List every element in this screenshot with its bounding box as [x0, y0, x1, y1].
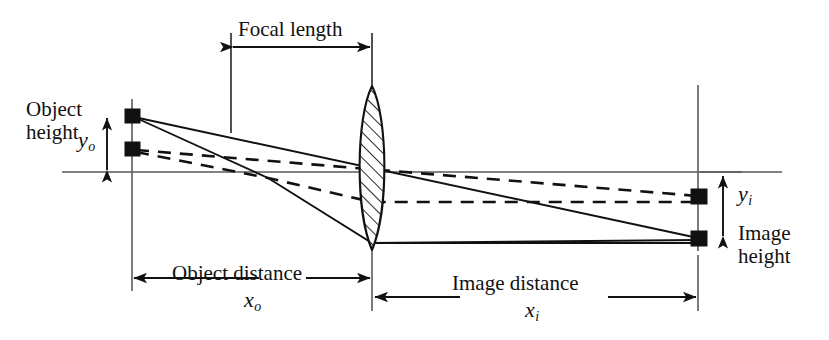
object-bottom-marker — [125, 142, 141, 157]
object-distance-symbol-base: x — [244, 287, 254, 312]
object-distance-symbol: xo — [244, 288, 261, 314]
object-top-marker — [125, 109, 141, 124]
image-distance-symbol-subscript: i — [535, 309, 539, 324]
image-height-label-line2: height — [738, 245, 791, 268]
image-height-label-line1: Image — [738, 221, 790, 245]
image-height-symbol: yi — [738, 182, 752, 208]
lens-body — [360, 86, 385, 250]
diagram-canvas — [0, 0, 829, 340]
image-height-label: Image height — [738, 222, 791, 267]
object-height-label: Object height — [26, 98, 82, 143]
image-bottom-marker — [691, 231, 708, 247]
object-height-label-line2: height — [26, 121, 82, 144]
image-height-symbol-subscript: i — [748, 193, 752, 208]
focal-length-label: Focal length — [238, 18, 342, 41]
object-height-symbol-subscript: o — [88, 139, 96, 154]
lens-diagram-figure: Object height yo Focal length Object dis… — [0, 0, 829, 340]
ray-solid-upper-a — [134, 117, 698, 238]
object-distance-symbol-subscript: o — [254, 299, 262, 314]
image-distance-symbol-base: x — [525, 297, 535, 322]
image-distance-symbol: xi — [525, 298, 539, 324]
image-height-symbol-base: y — [738, 181, 748, 206]
object-distance-label: Object distance — [172, 262, 302, 285]
object-height-label-line1: Object — [26, 97, 82, 121]
object-height-symbol-base: y — [78, 127, 88, 152]
object-height-symbol: yo — [78, 128, 95, 154]
image-distance-label: Image distance — [452, 272, 579, 295]
image-top-marker — [691, 189, 708, 205]
